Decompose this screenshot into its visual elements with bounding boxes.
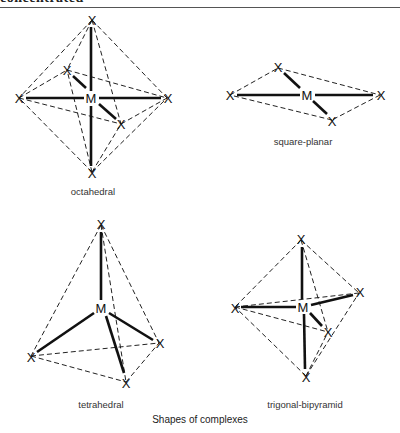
trigonal-bipyramid-label: trigonal-bipyramid bbox=[267, 399, 343, 410]
central-atom-label: M bbox=[86, 91, 97, 106]
ligand-atom-label: X bbox=[27, 350, 36, 365]
ligand-atom-label: X bbox=[156, 336, 165, 351]
square-planar-shape: M X X X X bbox=[226, 60, 386, 129]
central-atom-label: M bbox=[298, 300, 309, 315]
ligand-atom-label: X bbox=[324, 325, 333, 340]
central-atom-label: M bbox=[96, 301, 107, 316]
ligand-atom-label: X bbox=[377, 88, 386, 103]
ligand-atom-label: X bbox=[274, 60, 283, 75]
ligand-atom-label: X bbox=[117, 117, 126, 132]
tetrahedral-shape: X M X X X bbox=[27, 217, 165, 391]
complex-shapes-diagram: .dash { stroke:#222; stroke-width:1; str… bbox=[0, 0, 400, 433]
ligand-atom-label: X bbox=[15, 91, 24, 106]
ligand-atom-label: X bbox=[122, 376, 131, 391]
ligand-atom-label: X bbox=[88, 13, 97, 28]
ligand-atom-label: X bbox=[63, 63, 72, 78]
figure-caption: Shapes of complexes bbox=[152, 414, 248, 425]
octahedral-label: octahedral bbox=[71, 186, 115, 197]
ligand-atom-label: X bbox=[164, 91, 173, 106]
ligand-atom-label: X bbox=[226, 88, 235, 103]
octahedral-shape: M X X X X X X bbox=[15, 13, 173, 181]
ligand-atom-label: X bbox=[297, 232, 306, 247]
tetrahedral-label: tetrahedral bbox=[78, 399, 123, 410]
ligand-atom-label: X bbox=[88, 166, 97, 181]
central-atom-label: M bbox=[302, 88, 313, 103]
ligand-atom-label: X bbox=[231, 301, 240, 316]
ligand-atom-label: X bbox=[328, 114, 337, 129]
ligand-atom-label: X bbox=[97, 217, 106, 232]
ligand-atom-label: X bbox=[356, 285, 365, 300]
ligand-atom-label: X bbox=[302, 370, 311, 385]
trigonal-bipyramid-shape: X M X X X X bbox=[231, 232, 365, 385]
square-planar-label: square-planar bbox=[274, 136, 333, 147]
